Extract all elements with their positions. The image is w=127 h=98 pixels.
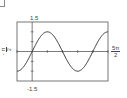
plot-area	[0, 0, 127, 98]
